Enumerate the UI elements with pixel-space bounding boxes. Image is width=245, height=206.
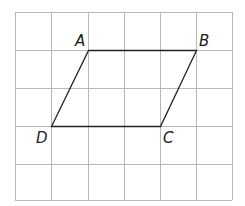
vertex-labels: A B C D <box>36 32 209 147</box>
vertex-label-a: A <box>74 32 85 50</box>
parallelogram-diagram: A B C D <box>0 0 245 206</box>
vertex-label-c: C <box>163 129 174 147</box>
vertex-label-b: B <box>199 32 209 50</box>
vertex-label-d: D <box>36 129 48 147</box>
